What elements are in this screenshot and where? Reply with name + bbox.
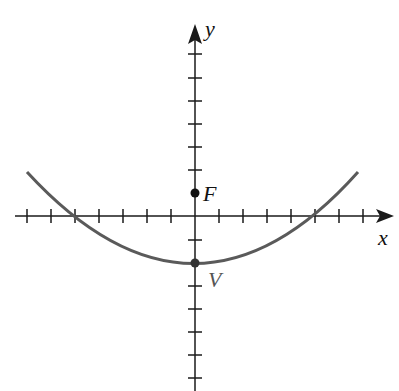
focus-label: F [202,181,217,206]
vertex-label: V [208,267,224,292]
focus-point [191,189,200,198]
parabola-curve [27,172,358,264]
vertex-point [191,259,200,268]
y-axis-label: y [203,16,215,41]
parabola-diagram: y x F V [0,0,399,391]
x-axis-label: x [377,225,388,250]
